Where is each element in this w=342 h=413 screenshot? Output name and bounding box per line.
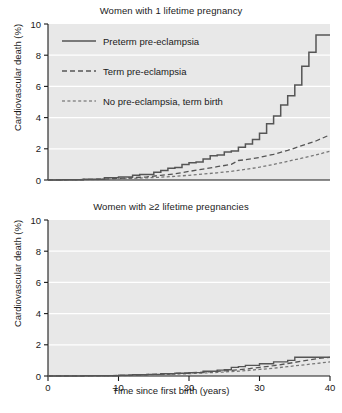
plot-area-top: 0 2 4 6 8 10 Preterm pre-eclampsia Term …	[0, 0, 342, 196]
legend-label-preterm-pre-eclampsia: Preterm pre-eclampsia	[103, 36, 200, 47]
figure-cardiovascular-death-chart: Women with 1 lifetime pregnancy Cardiova…	[0, 0, 342, 413]
y-tick-label-bottom-0: 0	[36, 371, 41, 382]
y-tick-label-bottom-8: 8	[36, 246, 41, 257]
x-tick-label-40: 40	[325, 382, 336, 393]
y-axis-top	[44, 24, 48, 180]
panel-two-or-more-pregnancies: Women with ≥2 lifetime pregnancies Cardi…	[0, 196, 342, 413]
y-axis-bottom	[44, 220, 48, 376]
y-tick-label-bottom-4: 4	[36, 308, 41, 319]
y-tick-label-top-4: 4	[36, 112, 41, 123]
y-tick-label-top-2: 2	[36, 143, 41, 154]
x-tick-label-10: 10	[113, 382, 124, 393]
x-tick-label-0: 0	[45, 382, 50, 393]
panel-one-pregnancy: Women with 1 lifetime pregnancy Cardiova…	[0, 0, 342, 196]
plot-background-bottom	[48, 220, 330, 376]
legend-label-term-pre-eclampsia: Term pre-eclampsia	[103, 66, 187, 77]
x-axis-bottom	[48, 376, 330, 381]
legend-label-no-pre-eclampsia-term-birth: No pre-eclampsia, term birth	[103, 96, 223, 107]
plot-area-bottom: 0 2 4 6 8 10 0 10 20 30 40	[0, 196, 342, 413]
y-tick-label-top-0: 0	[36, 175, 41, 186]
y-tick-label-bottom-10: 10	[30, 215, 41, 226]
y-tick-label-top-6: 6	[36, 81, 41, 92]
y-tick-label-top-8: 8	[36, 50, 41, 61]
x-tick-label-30: 30	[254, 382, 265, 393]
y-tick-label-bottom-2: 2	[36, 339, 41, 350]
y-tick-label-top-10: 10	[30, 19, 41, 30]
y-tick-label-bottom-6: 6	[36, 277, 41, 288]
x-tick-label-20: 20	[184, 382, 195, 393]
